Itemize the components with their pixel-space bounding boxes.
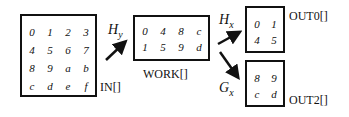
work-array-box: 0 4 8 c 1 5 9 d	[133, 15, 210, 61]
in-array-box: 0 1 2 3 4 5 6 7 8 9 a b c d e f	[20, 14, 97, 97]
op-hx: Hx	[219, 12, 234, 30]
cell: c	[192, 25, 206, 37]
cell: 8	[174, 25, 188, 37]
cell: 0	[250, 18, 264, 30]
cell: 4	[25, 44, 39, 56]
out0-array-box: 0 1 4 5	[245, 6, 285, 53]
cell: c	[25, 80, 39, 92]
op-hy: Hy	[108, 22, 123, 40]
arrow-hy	[106, 43, 124, 60]
cell: f	[79, 80, 93, 92]
cell: d	[192, 41, 206, 53]
cell: 7	[79, 44, 93, 56]
cell: 9	[43, 62, 57, 74]
cell: 9	[267, 72, 281, 84]
cell: 1	[43, 26, 57, 38]
op-gx: Gx	[219, 80, 234, 98]
cell: d	[43, 80, 57, 92]
out2-array-box: 8 9 c d	[245, 60, 285, 107]
cell: 0	[138, 25, 152, 37]
cell: 0	[25, 26, 39, 38]
diagram: 0 1 2 3 4 5 6 7 8 9 a b c d e f IN[] Hy …	[0, 0, 349, 117]
arrow-hx	[218, 33, 238, 44]
cell: 6	[61, 44, 75, 56]
cell: e	[61, 80, 75, 92]
cell: 9	[174, 41, 188, 53]
cell: 5	[43, 44, 57, 56]
cell: a	[61, 62, 75, 74]
cell: c	[250, 88, 264, 100]
cell: 4	[156, 25, 170, 37]
cell: 8	[250, 72, 264, 84]
cell: 2	[61, 26, 75, 38]
out0-label: OUT0[]	[289, 9, 328, 24]
arrow-gx	[220, 52, 237, 76]
cell: 8	[25, 62, 39, 74]
cell: 5	[156, 41, 170, 53]
cell: 1	[138, 41, 152, 53]
cell: 3	[79, 26, 93, 38]
in-label: IN[]	[100, 80, 121, 95]
cell: 1	[267, 18, 281, 30]
work-label: WORK[]	[143, 67, 188, 82]
cell: 4	[250, 34, 264, 46]
cell: b	[79, 62, 93, 74]
cell: 5	[267, 34, 281, 46]
cell: d	[267, 88, 281, 100]
out2-label: OUT2[]	[289, 93, 328, 108]
